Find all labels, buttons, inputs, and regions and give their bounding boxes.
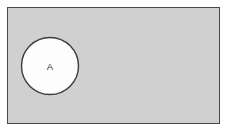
venn-diagram-svg: A bbox=[0, 0, 228, 132]
set-a-label: A bbox=[47, 61, 54, 72]
venn-diagram-canvas: A bbox=[0, 0, 228, 132]
